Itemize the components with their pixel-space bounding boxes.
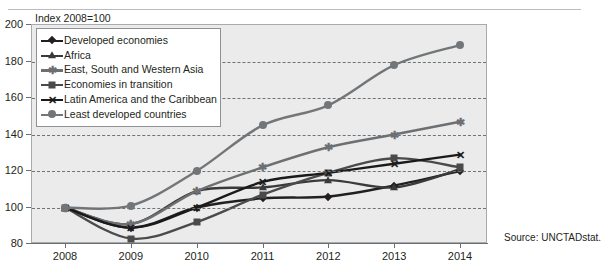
index-note: Index 2008=100 — [35, 12, 111, 24]
x-axis-label: 2014 — [448, 250, 472, 262]
y-axis-label: 100 — [5, 201, 23, 213]
legend-label: Latin America and the Caribbean — [64, 94, 217, 105]
legend-item-economies-in-transition[interactable]: Economies in transition — [40, 77, 216, 92]
circle-marker-icon — [456, 41, 464, 49]
caption-divider — [8, 9, 581, 10]
diamond-marker-icon — [48, 36, 56, 44]
asterisk-marker-icon: ✱ — [324, 142, 333, 153]
cross-marker-icon: ✕ — [48, 94, 57, 105]
asterisk-marker-icon: ✱ — [48, 64, 57, 75]
legend-item-east-south-and-western-asia[interactable]: ✱East, South and Western Asia — [40, 63, 216, 78]
triangle-marker-icon — [390, 184, 398, 191]
asterisk-marker-icon: ✱ — [192, 186, 201, 197]
legend-item-developed-economies[interactable]: Developed economies — [40, 33, 216, 48]
gridline — [32, 208, 486, 209]
x-axis-tick — [197, 243, 198, 248]
circle-marker-icon — [48, 110, 56, 118]
legend-label: Developed economies — [64, 35, 168, 46]
triangle-marker-icon — [48, 51, 56, 58]
x-axis-tick — [65, 243, 66, 248]
square-marker-icon — [457, 164, 464, 171]
circle-marker-icon — [259, 121, 267, 129]
x-axis: 2008200920102011201220132014 — [31, 243, 488, 268]
x-axis-tick — [328, 243, 329, 248]
legend-label: Least developed countries — [64, 109, 187, 120]
square-marker-icon — [127, 235, 134, 242]
square-marker-icon — [193, 219, 200, 226]
legend-marker: ✱ — [40, 63, 64, 77]
cross-marker-icon: ✕ — [258, 176, 267, 187]
x-axis-line — [31, 243, 488, 244]
cross-marker-icon: ✕ — [390, 158, 399, 169]
legend-item-africa[interactable]: Africa — [40, 48, 216, 63]
x-axis-label: 2012 — [316, 250, 340, 262]
square-marker-icon — [259, 191, 266, 198]
legend-marker: ✕ — [40, 93, 64, 107]
legend-label: Africa — [64, 50, 91, 61]
x-axis-label: 2011 — [251, 250, 275, 262]
source-note: Source: UNCTADstat. — [504, 232, 601, 243]
x-axis-tick — [131, 243, 132, 248]
gridline — [32, 135, 486, 136]
legend-marker — [40, 48, 64, 62]
series-line — [65, 122, 460, 225]
legend-marker — [40, 107, 64, 121]
x-axis-tick — [394, 243, 395, 248]
x-axis-label: 2009 — [119, 250, 143, 262]
y-axis-label: 120 — [5, 164, 23, 176]
y-axis: 80100120140160180200 — [0, 20, 31, 248]
y-axis-label: 200 — [5, 18, 23, 30]
legend-item-latin-america-and-the-caribbean[interactable]: ✕Latin America and the Caribbean — [40, 92, 216, 107]
cross-marker-icon: ✕ — [324, 167, 333, 178]
cross-marker-icon: ✕ — [126, 222, 135, 233]
asterisk-marker-icon: ✱ — [456, 116, 465, 127]
cross-marker-icon: ✕ — [456, 149, 465, 160]
chart-legend: Developed economiesAfrica✱East, South an… — [36, 28, 221, 127]
y-axis-label: 140 — [5, 128, 23, 140]
cropped-caption — [28, 0, 548, 8]
y-axis-label: 180 — [5, 55, 23, 67]
legend-item-least-developed-countries[interactable]: Least developed countries — [40, 107, 216, 122]
x-axis-tick — [460, 243, 461, 248]
legend-marker — [40, 33, 64, 47]
legend-label: Economies in transition — [64, 79, 173, 90]
y-axis-label: 160 — [5, 91, 23, 103]
square-marker-icon — [49, 81, 56, 88]
circle-marker-icon — [324, 101, 332, 109]
legend-marker — [40, 78, 64, 92]
x-axis-label: 2008 — [53, 250, 77, 262]
x-axis-tick — [263, 243, 264, 248]
x-axis-label: 2013 — [382, 250, 406, 262]
x-axis-label: 2010 — [184, 250, 208, 262]
gridline — [32, 171, 486, 172]
y-axis-label: 80 — [11, 237, 23, 249]
legend-label: East, South and Western Asia — [64, 64, 203, 75]
